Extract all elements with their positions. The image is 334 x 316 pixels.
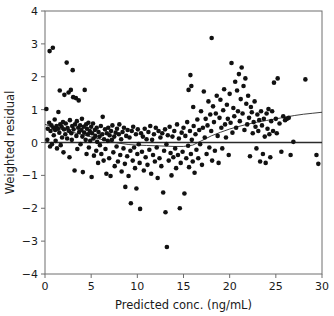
x-tick-label: 20 [223,280,237,293]
data-point [170,134,175,139]
data-point [202,135,207,140]
data-point [98,143,103,148]
data-point [119,137,124,142]
data-point [229,61,234,66]
data-point [112,134,117,139]
data-point [274,131,279,136]
data-point [196,156,201,161]
data-point [316,162,321,167]
data-point [141,134,146,139]
data-point [100,115,105,120]
data-point [123,185,128,190]
data-point [145,163,150,168]
data-point [176,153,181,158]
data-point [226,153,231,158]
data-point [274,117,279,122]
data-point [101,158,106,163]
y-tick-label: −4 [22,268,38,281]
data-point [231,106,236,111]
data-point [148,124,153,129]
data-point [107,156,112,161]
data-point [171,155,176,160]
data-point [84,152,89,157]
data-point [204,152,209,157]
data-point [217,116,222,121]
data-point [68,118,73,123]
data-point [131,124,136,129]
data-point [220,146,225,151]
data-point [56,110,61,115]
data-point [205,123,210,128]
data-point [149,171,154,176]
data-point [168,151,173,156]
data-point [138,207,143,212]
data-point [240,111,245,116]
data-point [192,170,197,175]
y-tick-label: 2 [31,71,38,84]
x-tick-label: 25 [269,280,283,293]
data-point [142,168,147,173]
data-point [262,134,267,139]
data-point [218,97,223,102]
y-axis-tick-labels: 43210−1−2−3−4 [22,5,38,281]
data-point [181,125,186,130]
data-point [161,190,166,195]
data-point [117,122,122,127]
data-point [272,80,277,85]
data-point [267,132,272,137]
data-point [111,150,116,155]
data-point [74,134,79,139]
data-point [178,206,183,211]
data-point [226,117,231,122]
data-point [129,129,134,134]
data-point [166,133,171,138]
data-point [269,119,274,124]
data-point [80,117,85,122]
data-point [219,125,224,130]
data-point [162,148,167,153]
data-point [239,65,244,70]
data-point [115,126,120,131]
data-point [69,138,74,143]
data-point [172,129,177,134]
data-point [243,76,248,81]
data-point [253,124,258,129]
y-tick-label: −2 [22,202,38,215]
data-point [248,154,253,159]
data-point [69,131,74,136]
data-point [143,155,148,160]
data-point [277,121,282,126]
x-tick-label: 15 [177,280,191,293]
data-point [140,149,145,154]
data-point [51,46,56,51]
data-point [83,138,88,143]
data-point [265,126,270,131]
data-point [186,88,191,93]
data-point [159,164,164,169]
data-point [232,114,237,119]
data-point [45,138,50,143]
data-point [146,130,151,135]
data-point [71,127,76,132]
data-point [198,142,203,147]
data-point [107,133,112,138]
data-point [104,171,109,176]
data-point [108,174,113,179]
data-point [250,110,255,115]
data-point [92,153,97,158]
data-point [249,105,254,110]
data-point [215,134,220,139]
x-axis-tick-labels: 051015202530 [42,280,330,293]
data-point [194,147,199,152]
data-point [286,116,291,121]
data-point [179,130,184,135]
data-point [136,142,141,147]
y-tick-label: −1 [22,169,38,182]
data-point [78,142,83,147]
data-point [154,145,159,150]
data-point [133,166,138,171]
data-point [72,168,77,173]
data-point [110,123,115,128]
data-point [86,120,91,125]
data-point [169,173,174,178]
